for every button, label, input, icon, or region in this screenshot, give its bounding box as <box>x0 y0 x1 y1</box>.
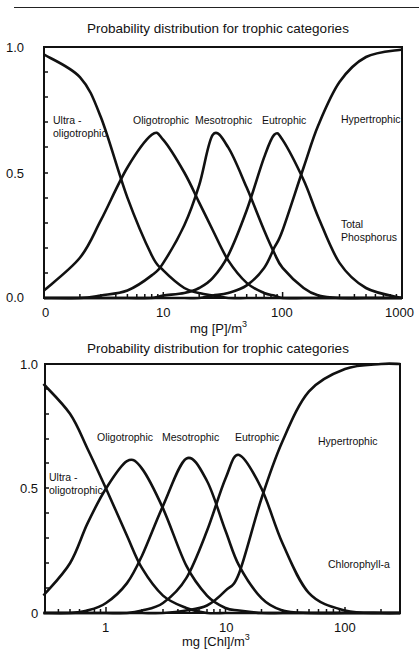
y-tick-label: 1.0 <box>20 357 38 372</box>
label-phosphorus: Phosphorus <box>341 231 397 243</box>
label-ultra-oligotrophic: Ultra - <box>53 114 82 126</box>
curves <box>44 50 402 299</box>
label-oligotrophic: Oligotrophic <box>133 114 189 126</box>
curve-ultra-oligotrophic <box>44 384 401 613</box>
label-hypertrophic: Hypertrophic <box>341 113 401 125</box>
curve-ultra-oligotrophic <box>44 55 402 299</box>
x-tick-label: 100 <box>334 620 356 635</box>
x-tick-label: 10 <box>219 620 233 635</box>
y-tick-label: 0.5 <box>6 166 24 181</box>
curve-eutrophic <box>44 133 402 298</box>
y-tick-label: 1.0 <box>6 40 24 55</box>
x-tick-label: 10 <box>156 305 170 320</box>
y-tick-label: 0 <box>31 606 38 621</box>
label-mesotrophic: Mesotrophic <box>195 114 252 126</box>
chart-title-chlorophyll: Probability distribution for trophic cat… <box>87 341 349 356</box>
label-ultra-oligotrophic: Ultra - <box>49 471 78 483</box>
x-tick-label: 1000 <box>385 305 414 320</box>
x-axis-label: mg [P]/m3 <box>190 319 247 336</box>
plot-frame <box>44 47 402 298</box>
x-tick-label: 0 <box>42 305 49 320</box>
label-total: Total <box>341 218 363 230</box>
curve-hypertrophic <box>44 50 402 299</box>
label-eutrophic: Eutrophic <box>262 114 306 126</box>
charts-canvas: 1.0 0.5 0.0 0 10 100 1000 mg [P]/m3 Ultr… <box>0 0 419 651</box>
label-oligotrophic: Oligotrophic <box>97 431 153 443</box>
y-tick-label: 0.5 <box>20 481 38 496</box>
label-chlorophyll-a: Chlorophyll-a <box>328 558 390 570</box>
label-eutrophic: Eutrophic <box>235 431 279 443</box>
curve-mesotrophic <box>44 458 401 613</box>
curve-oligotrophic <box>44 460 401 613</box>
x-tick-label: 100 <box>271 305 293 320</box>
label-ultra-oligotrophic-2: oligotrophic <box>53 127 107 139</box>
chart-phosphorus: 1.0 0.5 0.0 0 10 100 1000 mg [P]/m3 Ultr… <box>6 40 414 336</box>
label-mesotrophic: Mesotrophic <box>162 431 219 443</box>
curve-eutrophic <box>44 455 401 613</box>
x-tick-label: 1 <box>102 620 109 635</box>
y-tick-label: 0.0 <box>6 290 24 305</box>
x-axis-label: mg [Chl]/m3 <box>182 632 250 649</box>
label-ultra-oligotrophic-2: oligotrophic <box>49 484 103 496</box>
label-hypertrophic: Hypertrophic <box>318 435 378 447</box>
chart-chlorophyll: 1.0 0.5 0 1 10 100 mg [Chl]/m3 Oligotrop… <box>20 357 400 649</box>
